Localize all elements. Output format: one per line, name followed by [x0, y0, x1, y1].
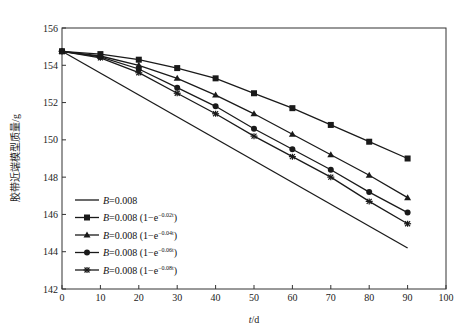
series-triangle: [59, 48, 412, 200]
y-tick-label: 146: [43, 209, 58, 220]
square-marker: [174, 65, 180, 71]
x-tick-label: 100: [439, 292, 454, 303]
x-axis: 0102030405060708090100: [60, 285, 454, 303]
circle-marker: [289, 146, 295, 152]
star-marker: [251, 133, 258, 139]
square-marker: [405, 156, 411, 162]
y-axis-label: 胶带近端模型质量/g: [9, 114, 21, 202]
legend-item: B=0.008 (1−e−0.02t): [75, 212, 177, 224]
legend-label: B=0.008: [103, 195, 137, 206]
legend: B=0.008B=0.008 (1−e−0.02t)B=0.008 (1−e−0…: [75, 195, 177, 277]
legend-item: B=0.008: [75, 195, 137, 206]
circle-marker: [405, 210, 411, 216]
y-tick-label: 150: [43, 134, 58, 145]
y-tick-label: 156: [43, 23, 58, 34]
legend-label: B=0.008 (1−e−0.08t): [103, 265, 177, 277]
square-marker: [328, 122, 334, 128]
triangle-marker: [327, 151, 334, 157]
star-marker: [97, 55, 104, 61]
y-tick-label: 152: [43, 97, 58, 108]
triangle-marker: [404, 194, 411, 200]
series-circle: [59, 48, 411, 215]
star-marker: [327, 174, 334, 180]
line-chart: 0102030405060708090100 14214414614815015…: [0, 0, 471, 334]
y-axis: 142144146148150152154156: [43, 23, 66, 295]
star-marker: [366, 198, 373, 204]
y-tick-label: 144: [43, 246, 58, 257]
star-marker: [289, 154, 296, 160]
square-marker: [84, 215, 90, 221]
x-tick-label: 50: [249, 292, 259, 303]
star-marker: [135, 70, 142, 76]
x-tick-label: 80: [364, 292, 374, 303]
x-tick-label: 10: [95, 292, 105, 303]
y-tick-label: 154: [43, 60, 58, 71]
square-marker: [289, 105, 295, 111]
x-tick-label: 60: [287, 292, 297, 303]
x-tick-label: 30: [172, 292, 182, 303]
x-axis-label: t/d: [249, 314, 260, 325]
square-marker: [251, 90, 257, 96]
y-tick-label: 148: [43, 172, 58, 183]
y-tick-label: 142: [43, 284, 58, 295]
legend-label: B=0.008 (1−e−0.04t): [103, 230, 177, 242]
legend-item: B=0.008 (1−e−0.06t): [75, 247, 177, 259]
legend-item: B=0.008 (1−e−0.04t): [75, 230, 177, 242]
circle-marker: [84, 250, 90, 256]
x-tick-label: 0: [60, 292, 65, 303]
x-tick-label: 20: [134, 292, 144, 303]
legend-label: B=0.008 (1−e−0.02t): [103, 212, 177, 224]
star-marker: [174, 90, 181, 96]
triangle-marker: [289, 131, 296, 137]
star-marker: [84, 267, 91, 273]
legend-item: B=0.008 (1−e−0.08t): [75, 265, 177, 277]
circle-marker: [174, 85, 180, 91]
circle-marker: [251, 126, 257, 132]
star-marker: [59, 48, 66, 54]
x-tick-label: 40: [211, 292, 221, 303]
x-tick-label: 70: [326, 292, 336, 303]
triangle-marker: [366, 172, 373, 178]
star-marker: [212, 111, 219, 117]
x-tick-label: 90: [403, 292, 413, 303]
circle-marker: [213, 103, 219, 109]
legend-label: B=0.008 (1−e−0.06t): [103, 247, 177, 259]
series-line: [62, 51, 408, 212]
square-marker: [213, 75, 219, 81]
square-marker: [366, 139, 372, 145]
circle-marker: [328, 167, 334, 173]
circle-marker: [366, 189, 372, 195]
star-marker: [404, 221, 411, 227]
